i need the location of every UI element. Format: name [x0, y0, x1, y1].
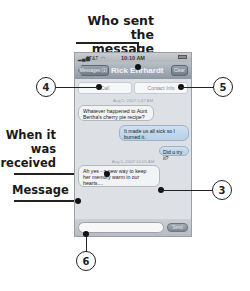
timestamp: Aug 5, 2007 5:47 AM — [75, 98, 191, 103]
send-button[interactable]: Send — [167, 223, 188, 232]
pointer-dot — [75, 198, 81, 204]
action-row: Call Contact Info — [78, 82, 188, 94]
call-button[interactable]: Call — [78, 82, 132, 94]
clock: 10:10 AM — [121, 55, 145, 61]
phone-screen: ▂▄▆ AT&T ◠ 10:10 AM Messages (1) Rick Eh… — [74, 52, 192, 237]
callout-line — [76, 42, 138, 44]
callout-line — [56, 87, 98, 89]
pointer-dot — [135, 64, 141, 70]
callout-line — [160, 190, 213, 192]
callout-line — [86, 234, 88, 252]
status-bar: ▂▄▆ AT&T ◠ 10:10 AM — [75, 53, 191, 62]
callout-when-line3: received — [0, 156, 56, 170]
callout-who-sent-line1: Who sent — [74, 14, 154, 28]
callout-line — [180, 87, 214, 89]
message-input[interactable] — [78, 222, 164, 233]
carrier-label: AT&T — [86, 55, 98, 61]
battery-icon — [178, 55, 187, 59]
sent-message-bubble: Did u try it? — [159, 146, 189, 156]
pointer-dot — [104, 171, 110, 177]
callout-number-5: 5 — [213, 77, 233, 97]
callout-when-line1: When it — [0, 128, 56, 142]
timestamp: Aug 5, 2007 10:05 AM — [75, 159, 191, 164]
callout-number-6: 6 — [76, 251, 96, 271]
received-message-bubble: Ah yes - a new way to keep her memory wa… — [78, 165, 160, 187]
composer-bar: Send — [75, 219, 191, 236]
messages-back-button[interactable]: Messages (1) — [78, 65, 109, 76]
callout-number-4: 4 — [36, 77, 56, 97]
callout-number-3: 3 — [212, 180, 232, 200]
sent-message-bubble: It made us all sick so I burned it. — [119, 125, 189, 141]
received-message-bubble: Whatever happened to Aunt Bertha's cherr… — [78, 105, 154, 121]
callout-line — [14, 200, 78, 202]
wifi-icon: ◠ — [101, 55, 105, 61]
clear-button[interactable]: Clear — [171, 65, 188, 76]
callout-message: Message — [12, 183, 72, 197]
nav-bar: Messages (1) Rick Ehrhardt Clear — [75, 62, 191, 79]
callout-when-received: When it was received — [0, 128, 56, 170]
callout-who-sent: Who sent the message — [74, 14, 154, 56]
callout-when-line2: was — [0, 142, 56, 156]
